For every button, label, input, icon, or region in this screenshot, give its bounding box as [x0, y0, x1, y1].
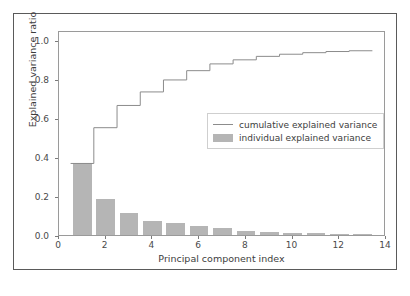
x-tick-mark: [245, 236, 246, 239]
figure-container: 0.00.20.40.60.81.0 02468101214 Principal…: [13, 13, 397, 270]
legend-item-individual: individual explained variance: [213, 131, 377, 144]
legend-item-cumulative: cumulative explained variance: [213, 118, 377, 131]
y-tick-label: 0.2: [35, 193, 49, 202]
x-tick-mark: [105, 236, 106, 239]
x-tick-label: 4: [139, 241, 163, 250]
x-tick-label: 8: [233, 241, 257, 250]
y-tick-label: 0.4: [35, 154, 49, 163]
chart-legend: cumulative explained variance individual…: [207, 113, 384, 149]
y-tick-mark: [55, 158, 58, 159]
x-tick-label: 10: [280, 241, 304, 250]
y-tick-mark: [55, 41, 58, 42]
x-tick-mark: [58, 236, 59, 239]
y-tick-mark: [55, 197, 58, 198]
y-axis-label: Explained variance ratio: [27, 0, 38, 150]
x-tick-mark: [151, 236, 152, 239]
y-tick-label: 0.0: [35, 232, 49, 241]
x-tick-mark: [338, 236, 339, 239]
x-tick-label: 6: [186, 241, 210, 250]
legend-label-cumulative: cumulative explained variance: [239, 120, 377, 130]
x-tick-label: 12: [326, 241, 350, 250]
legend-patch-marker-icon: [213, 134, 233, 142]
x-tick-mark: [385, 236, 386, 239]
x-tick-label: 14: [373, 241, 397, 250]
x-tick-mark: [292, 236, 293, 239]
x-tick-mark: [198, 236, 199, 239]
x-axis-label: Principal component index: [58, 253, 385, 264]
x-tick-label: 0: [46, 241, 70, 250]
y-tick-mark: [55, 80, 58, 81]
y-tick-mark: [55, 119, 58, 120]
legend-line-marker-icon: [213, 124, 233, 125]
x-tick-label: 2: [93, 241, 117, 250]
legend-label-individual: individual explained variance: [239, 133, 371, 143]
